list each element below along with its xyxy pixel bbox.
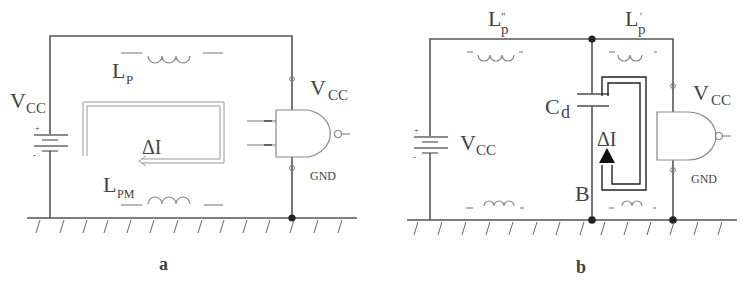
panel-a: + - V CC L P ΔI V [10,36,357,274]
battery-plus-label: + [414,126,419,135]
inductor-lp-double-prime-icon [467,52,523,61]
vcc-supply-subscript: CC [476,142,496,158]
vcc-gate-subscript: CC [328,87,348,103]
vcc-gate-label: V [693,80,709,105]
lp-subscript: P [126,72,133,87]
lp-label: L [112,58,125,83]
lpm-label: L [103,172,116,197]
lp-prime-subscript: p [638,21,646,37]
panel-b: L p " L p ' C d [407,6,737,277]
panel-a-caption: a [159,254,168,274]
battery-minus-label: - [33,150,36,160]
lp-double-prime-label: L [488,6,501,31]
nand-gate-icon [247,110,350,157]
gate-ground-junction-dot [669,216,677,224]
inductor-lpm-icon [121,197,223,205]
panel-b-caption: b [576,257,586,277]
gnd-label: GND [691,172,717,186]
lpm-subscript: PM [117,187,135,201]
nand-gate-icon [657,112,731,160]
lp-prime-label: L [625,6,638,31]
lp-double-prime-mark: " [501,10,506,22]
lp-prime-mark: ' [640,10,642,22]
battery-minus-label: - [413,152,416,162]
ground-inductor-left-icon [466,201,524,208]
vcc-gate-label: V [310,75,326,100]
capacitor-cd-icon [577,94,609,106]
arrow-up-icon [599,148,615,163]
vcc-supply-subscript: CC [26,100,46,116]
vcc-gate-subscript: CC [711,92,731,108]
ground-hatch-icon [414,222,722,235]
lp-double-prime-subscript: p [501,21,509,37]
cd-label: C [545,94,560,119]
ground-junction-dot [288,214,295,221]
vcc-supply-label: V [10,88,26,113]
supply-junction-dot [588,35,595,42]
ground-inductor-right-icon [609,201,656,208]
inductor-lp-icon [121,53,223,63]
battery-icon [414,118,448,170]
ground-hatch-icon [36,220,342,233]
node-b-label: B [575,181,590,206]
delta-i-label: ΔI [597,128,617,150]
gnd-label: GND [310,169,336,183]
delta-i-label: ΔI [142,136,162,158]
circuit-diagram: + - V CC L P ΔI V [0,0,746,289]
inductor-lp-prime-icon [609,52,657,61]
vcc-supply-label: V [460,130,476,155]
node-b-junction-dot [588,216,596,224]
battery-plus-label: + [35,124,40,133]
cd-subscript: d [561,102,570,122]
